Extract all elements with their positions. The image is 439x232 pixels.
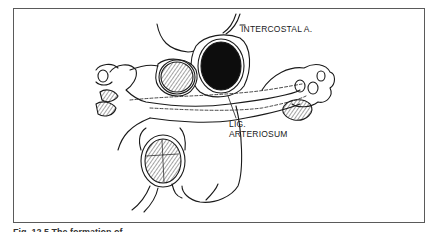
figure-caption: Fig. 12.5 The formation of ... (13, 227, 133, 232)
intercostal-artery-right (226, 14, 240, 34)
anatomical-illustration (0, 0, 439, 232)
label-lig-line1: LIG. (229, 119, 288, 129)
label-intercostal-artery: INTERCOSTAL A. (241, 24, 312, 34)
label-ligamentum-arteriosum: LIG. ARTERIOSUM (229, 119, 288, 139)
label-lig-line2: ARTERIOSUM (229, 129, 288, 139)
